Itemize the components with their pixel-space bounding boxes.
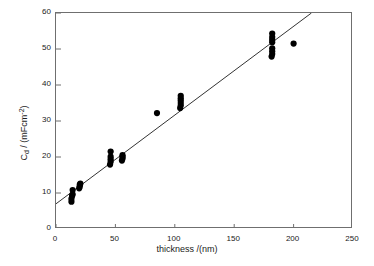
y-tick-label: 30 [31,116,51,124]
x-tick-label: 250 [345,235,358,243]
data-point [77,181,83,187]
y-tick-label: 60 [31,8,51,16]
y-axis-symbol: C [19,154,29,161]
x-axis-title: thickness /(nm) [0,244,374,254]
data-point [154,110,160,116]
y-tick-label: 0 [31,224,51,232]
y-axis-superscript: -2 [18,108,25,114]
x-tick-label: 100 [167,235,180,243]
y-tick-label: 40 [31,80,51,88]
x-tick-label: 50 [110,235,119,243]
y-tick-label: 20 [31,152,51,160]
tick-marks [56,13,351,227]
x-tick-label: 0 [53,235,57,243]
y-axis-subscript: d [23,150,30,154]
data-points [68,30,296,204]
data-point [269,30,275,36]
data-point [70,187,76,193]
data-point [178,93,184,99]
scatter-plot-figure: 0102030405060 050100150200250 thickness … [0,0,374,266]
x-tick-label: 200 [286,235,299,243]
data-point [269,45,275,51]
plot-inner [56,13,351,227]
y-axis-separator: / (mFcm [19,115,29,151]
x-tick-label: 150 [227,235,240,243]
y-axis-close-paren: ) [19,105,29,108]
data-point [108,149,114,155]
y-axis-title: Cd / (mFcm-2) [18,63,30,203]
y-tick-label: 50 [31,44,51,52]
data-point [291,41,297,47]
plot-canvas [56,13,351,227]
plot-area [55,12,352,228]
y-tick-label: 10 [31,188,51,196]
data-point [119,152,125,158]
